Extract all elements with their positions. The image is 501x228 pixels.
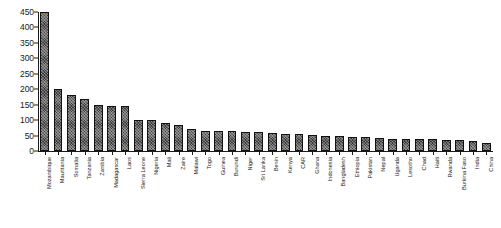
bar[interactable] xyxy=(161,123,170,151)
x-axis-line xyxy=(38,151,493,152)
bar-slot[interactable] xyxy=(54,12,63,151)
bar[interactable] xyxy=(268,133,277,151)
bar[interactable] xyxy=(295,134,304,151)
x-axis-tick-label: Laos xyxy=(127,157,133,169)
x-axis-tick-mark xyxy=(460,151,461,155)
bar[interactable] xyxy=(254,132,263,151)
bar-slot[interactable] xyxy=(321,12,330,151)
bar[interactable] xyxy=(321,136,330,151)
bar-slot[interactable] xyxy=(161,12,170,151)
bar-slot[interactable] xyxy=(187,12,196,151)
bar[interactable] xyxy=(80,99,89,152)
bar[interactable] xyxy=(361,137,370,151)
x-axis-tick-mark xyxy=(98,151,99,155)
y-axis-tick-label: 400 xyxy=(20,23,34,32)
bar[interactable] xyxy=(147,120,156,151)
x-axis-tick-mark xyxy=(299,151,300,155)
bar[interactable] xyxy=(187,129,196,151)
x-axis-tick-mark xyxy=(352,151,353,155)
bar-slot[interactable] xyxy=(348,12,357,151)
bar-slot[interactable] xyxy=(241,12,250,151)
bar-slot[interactable] xyxy=(67,12,76,151)
x-axis-tick-mark xyxy=(71,151,72,155)
bar[interactable] xyxy=(442,140,451,151)
bar-slot[interactable] xyxy=(295,12,304,151)
bar[interactable] xyxy=(121,106,130,151)
bar[interactable] xyxy=(174,125,183,151)
bar-slot[interactable] xyxy=(201,12,210,151)
bar[interactable] xyxy=(54,89,63,151)
bar[interactable] xyxy=(94,105,103,151)
bar-slot[interactable] xyxy=(147,12,156,151)
y-axis-tick-label: 250 xyxy=(20,70,34,79)
bar-slot[interactable] xyxy=(375,12,384,151)
bar-slot[interactable] xyxy=(482,12,491,151)
x-axis-tick-mark xyxy=(272,151,273,155)
bar-slot[interactable] xyxy=(254,12,263,151)
x-axis-tick-label: Ghana xyxy=(315,157,321,174)
bar[interactable] xyxy=(428,139,437,151)
bar-slot[interactable] xyxy=(455,12,464,151)
x-axis-tick-mark xyxy=(312,151,313,155)
bar-slot[interactable] xyxy=(134,12,143,151)
bar[interactable] xyxy=(335,136,344,151)
bar[interactable] xyxy=(40,12,49,151)
bar-slot[interactable] xyxy=(402,12,411,151)
x-axis-tick-label: Rwanda xyxy=(448,157,454,178)
x-axis-tick-mark xyxy=(393,151,394,155)
bar-slot[interactable] xyxy=(415,12,424,151)
x-axis-tick-label: Nigeria xyxy=(154,157,160,175)
x-axis-tick-mark xyxy=(232,151,233,155)
bar[interactable] xyxy=(241,132,250,151)
bar-slot[interactable] xyxy=(388,12,397,151)
bar-slot[interactable] xyxy=(107,12,116,151)
x-axis-tick-label: Kenya xyxy=(288,157,294,173)
bar-slot[interactable] xyxy=(428,12,437,151)
bar-slot[interactable] xyxy=(228,12,237,151)
bar[interactable] xyxy=(281,134,290,151)
bar[interactable] xyxy=(201,131,210,151)
bar[interactable] xyxy=(214,131,223,151)
bar-slot[interactable] xyxy=(442,12,451,151)
bar[interactable] xyxy=(134,120,143,151)
x-axis-tick-mark xyxy=(112,151,113,155)
bar-slot[interactable] xyxy=(361,12,370,151)
x-axis-tick-label: China xyxy=(489,157,495,172)
x-axis-tick-mark xyxy=(58,151,59,155)
x-axis-tick-label: Madagascar xyxy=(114,157,120,188)
x-axis-tick-label: Uganda xyxy=(395,157,401,177)
bar[interactable] xyxy=(348,137,357,151)
bar[interactable] xyxy=(308,135,317,151)
x-axis-tick-label: Pakistan xyxy=(368,157,374,178)
bar[interactable] xyxy=(375,138,384,151)
x-axis-tick-mark xyxy=(138,151,139,155)
bar-slot[interactable] xyxy=(308,12,317,151)
y-axis-ticks: 050100150200250300350400450 xyxy=(0,0,34,228)
bar-slot[interactable] xyxy=(80,12,89,151)
bar[interactable] xyxy=(67,95,76,151)
x-axis-tick-mark xyxy=(326,151,327,155)
x-axis-tick-label: Nepal xyxy=(381,157,387,172)
bar[interactable] xyxy=(482,143,491,151)
x-axis-tick-label: Sierra Leone xyxy=(141,157,147,189)
bar[interactable] xyxy=(228,131,237,151)
x-axis-tick-label: Mozambique xyxy=(47,157,53,189)
bar-slot[interactable] xyxy=(40,12,49,151)
bar[interactable] xyxy=(107,106,116,151)
bar[interactable] xyxy=(402,139,411,151)
bar[interactable] xyxy=(388,139,397,151)
bar[interactable] xyxy=(415,139,424,151)
bar-slot[interactable] xyxy=(335,12,344,151)
bar-slot[interactable] xyxy=(214,12,223,151)
bar-slot[interactable] xyxy=(121,12,130,151)
bar[interactable] xyxy=(469,141,478,151)
bar-slot[interactable] xyxy=(469,12,478,151)
bar[interactable] xyxy=(455,140,464,151)
x-axis-tick-label: Zaire xyxy=(181,157,187,170)
bar-slot[interactable] xyxy=(281,12,290,151)
x-axis-tick-mark xyxy=(339,151,340,155)
x-axis-tick-mark xyxy=(486,151,487,155)
bar-slot[interactable] xyxy=(174,12,183,151)
bar-slot[interactable] xyxy=(268,12,277,151)
bar-slot[interactable] xyxy=(94,12,103,151)
